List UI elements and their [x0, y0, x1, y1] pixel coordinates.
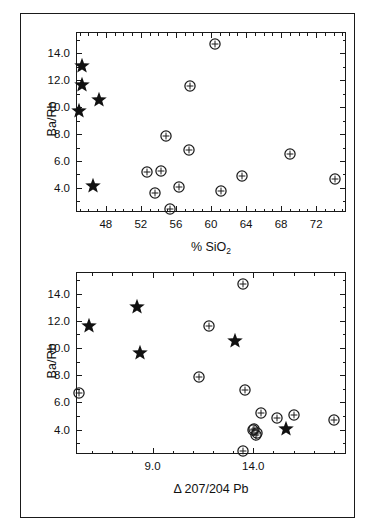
y-tick-label: 4.0 [28, 424, 70, 436]
x-axis-title-top: % SiO2 [191, 240, 231, 254]
x-tick-minor [112, 451, 113, 455]
x-tick-label: 56 [170, 218, 183, 230]
circle-crosshair-marker [250, 428, 263, 441]
circle-crosshair-marker [237, 278, 250, 291]
x-tick-minor-top [325, 32, 326, 36]
filled-star-marker [81, 317, 98, 334]
y-tick-minor-right [343, 148, 347, 149]
y-axis-title-top: Ba/Rb [22, 112, 82, 126]
y-tick-major-right [340, 80, 346, 81]
x-tick-label: 9.0 [145, 460, 161, 472]
y-tick-major-right [340, 161, 346, 162]
y-tick-minor-right [343, 201, 347, 202]
y-tick-minor-right [343, 67, 347, 68]
circle-crosshair-marker [202, 320, 215, 333]
x-tick-minor-top [220, 32, 221, 36]
x-tick-major [316, 206, 317, 212]
x-tick-label: 52 [134, 218, 147, 230]
x-tick-minor-top [202, 32, 203, 36]
x-tick-label: 14.0 [242, 460, 264, 472]
x-tick-minor [88, 209, 89, 213]
y-tick-major-right [340, 134, 346, 135]
filled-star-marker [277, 420, 294, 437]
y-tick-minor-right [343, 280, 347, 281]
filled-star-marker [132, 345, 149, 362]
y-tick-label: 14.0 [28, 47, 70, 59]
x-tick-minor [92, 451, 93, 455]
y-tick-major-right [340, 430, 346, 431]
x-tick-minor [193, 209, 194, 213]
y-tick-major-right [340, 402, 346, 403]
y-tick-minor [76, 174, 80, 175]
circle-crosshair-marker [173, 181, 186, 194]
x-tick-major-top [246, 32, 247, 38]
x-tick-label: 68 [275, 218, 288, 230]
y-tick-minor-right [343, 40, 347, 41]
y-axis-title-bottom-text: Ba/Rb [45, 331, 59, 391]
x-tick-minor-top [299, 32, 300, 36]
x-tick-minor-top [273, 272, 274, 276]
x-tick-minor-top [193, 32, 194, 36]
x-tick-major-top [106, 32, 107, 38]
x-tick-minor-top [342, 32, 343, 36]
x-tick-minor-top [167, 32, 168, 36]
x-tick-minor [132, 451, 133, 455]
x-tick-minor-top [123, 32, 124, 36]
y-tick-minor-right [343, 174, 347, 175]
x-tick-minor-top [112, 272, 113, 276]
circle-crosshair-marker [73, 386, 86, 399]
y-tick-label: 12.0 [28, 315, 70, 327]
x-tick-major [153, 448, 154, 454]
y-tick-major [76, 402, 82, 403]
x-tick-minor [272, 209, 273, 213]
y-tick-label: 12.0 [28, 74, 70, 86]
circle-crosshair-marker [255, 406, 268, 419]
x-tick-major-top [153, 272, 154, 278]
x-axis-title-top-prefix: % SiO [191, 240, 226, 254]
x-tick-minor [80, 209, 81, 213]
x-tick-minor [123, 209, 124, 213]
x-tick-minor [237, 209, 238, 213]
x-tick-major-top [141, 32, 142, 38]
circle-crosshair-marker [239, 384, 252, 397]
x-tick-minor-top [193, 272, 194, 276]
x-tick-minor-top [115, 32, 116, 36]
y-tick-label: 6.0 [28, 155, 70, 167]
y-tick-major-right [340, 294, 346, 295]
x-tick-minor [294, 451, 295, 455]
x-axis-title-bottom-text: Δ 207/204 Pb [173, 482, 248, 496]
x-tick-minor-top [264, 32, 265, 36]
circle-crosshair-marker [163, 202, 176, 215]
x-tick-minor [299, 209, 300, 213]
x-tick-minor [97, 209, 98, 213]
x-tick-major [211, 206, 212, 212]
x-tick-major-top [176, 32, 177, 38]
x-tick-minor-top [88, 32, 89, 36]
circle-crosshair-marker [209, 38, 222, 51]
y-tick-minor-right [343, 416, 347, 417]
y-tick-minor-right [343, 94, 347, 95]
y-tick-major [76, 348, 82, 349]
filled-star-marker [90, 91, 107, 108]
x-tick-minor-top [237, 32, 238, 36]
x-tick-minor-top [173, 272, 174, 276]
x-tick-major [141, 206, 142, 212]
x-tick-label: 60 [205, 218, 218, 230]
x-tick-major [253, 448, 254, 454]
x-tick-minor-top [290, 32, 291, 36]
x-tick-minor [307, 209, 308, 213]
x-tick-minor-top [307, 32, 308, 36]
x-tick-minor [202, 209, 203, 213]
y-tick-minor [76, 40, 80, 41]
circle-crosshair-marker [287, 408, 300, 421]
x-tick-minor-top [229, 32, 230, 36]
x-tick-minor [334, 451, 335, 455]
x-tick-minor [115, 209, 116, 213]
filled-star-marker [84, 178, 101, 195]
y-tick-major [76, 161, 82, 162]
circle-crosshair-marker [155, 165, 168, 178]
x-axis-title-bottom: Δ 207/204 Pb [173, 482, 248, 496]
x-tick-major-top [253, 272, 254, 278]
x-tick-minor-top [150, 32, 151, 36]
x-tick-minor-top [255, 32, 256, 36]
